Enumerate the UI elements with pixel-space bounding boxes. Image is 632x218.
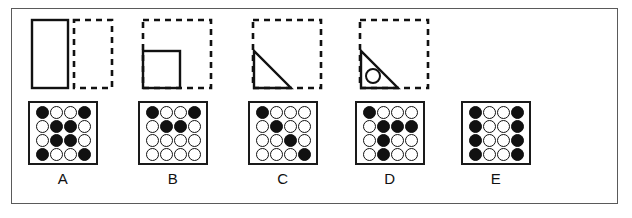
dot-open-r2c1: [146, 120, 159, 133]
dot-grid-row: [465, 147, 527, 161]
dashed-square-shape: [74, 20, 112, 88]
dot-grid-row: [252, 133, 314, 147]
dot-filled-r3c4: [511, 134, 524, 147]
dot-open-r4c1: [256, 148, 269, 161]
dashed-square-shape: [253, 20, 321, 88]
dot-open-r4c4: [188, 148, 201, 161]
option-a-label: A: [25, 170, 101, 187]
option-c[interactable]: C: [245, 101, 321, 187]
solid-triangle-shape: [254, 51, 291, 88]
dot-filled-r2c3: [174, 120, 187, 133]
answer-options-row: A B C D E: [12, 101, 619, 205]
dot-open-r1c3: [391, 106, 404, 119]
dot-grid-row: [465, 133, 527, 147]
stimulus-panel-2: [140, 18, 226, 92]
dot-filled-r2c2: [377, 120, 390, 133]
dot-grid-row: [32, 105, 94, 119]
dot-grid-row: [359, 105, 421, 119]
dot-open-r4c4: [405, 148, 418, 161]
option-b-label: B: [135, 170, 211, 187]
dot-open-r2c3: [284, 120, 297, 133]
dot-open-r1c4: [405, 106, 418, 119]
dot-grid-row: [359, 119, 421, 133]
dot-open-r2c4: [188, 120, 201, 133]
dot-open-r1c2: [377, 106, 390, 119]
dot-grid-row: [465, 105, 527, 119]
triangle-with-circle-figure: [357, 18, 443, 92]
dot-grid-row: [359, 133, 421, 147]
square-in-dashed-square-figure: [140, 18, 226, 92]
dot-filled-r2c3: [64, 120, 77, 133]
dot-open-r4c3: [174, 148, 187, 161]
dot-filled-r4c2: [377, 148, 390, 161]
dashed-square-shape: [143, 20, 211, 88]
dot-grid-d: [355, 101, 425, 165]
dot-filled-r2c3: [391, 120, 404, 133]
dot-filled-r3c1: [469, 134, 482, 147]
dot-open-r3c2: [483, 134, 496, 147]
dot-filled-r4c4: [511, 148, 524, 161]
dot-filled-r2c4: [405, 120, 418, 133]
dot-filled-r4c4: [298, 148, 311, 161]
dot-filled-r4c1: [36, 148, 49, 161]
dot-filled-r3c3: [284, 134, 297, 147]
dot-grid-row: [142, 147, 204, 161]
stimulus-panel-3: [250, 18, 336, 92]
dot-filled-r2c4: [511, 120, 524, 133]
dot-filled-r4c1: [469, 148, 482, 161]
option-b[interactable]: B: [135, 101, 211, 187]
dot-open-r4c2: [483, 148, 496, 161]
dot-open-r1c3: [64, 106, 77, 119]
dot-open-r3c1: [146, 134, 159, 147]
option-c-label: C: [245, 170, 321, 187]
dot-open-r4c3: [391, 148, 404, 161]
dot-open-r2c4: [78, 120, 91, 133]
dot-filled-r2c1: [469, 120, 482, 133]
dot-open-r3c4: [405, 134, 418, 147]
option-a[interactable]: A: [25, 101, 101, 187]
dot-open-r2c3: [497, 120, 510, 133]
dot-open-r2c1: [36, 120, 49, 133]
dot-open-r1c4: [298, 106, 311, 119]
dot-filled-r1c1: [363, 106, 376, 119]
triangle-in-dashed-square-figure: [250, 18, 336, 92]
dot-open-r3c3: [174, 134, 187, 147]
dot-grid-row: [32, 119, 94, 133]
dot-open-r1c2: [270, 106, 283, 119]
dot-filled-r2c2: [270, 120, 283, 133]
dot-filled-r1c4: [188, 106, 201, 119]
dot-open-r2c1: [256, 120, 269, 133]
dot-grid-row: [142, 119, 204, 133]
dot-filled-r3c2: [50, 134, 63, 147]
option-e-label: E: [458, 170, 534, 187]
puzzle-frame: A B C D E: [11, 8, 618, 204]
dot-open-r4c3: [64, 148, 77, 161]
option-e[interactable]: E: [458, 101, 534, 187]
dot-grid-row: [252, 119, 314, 133]
dot-grid-row: [465, 119, 527, 133]
dot-filled-r2c2: [50, 120, 63, 133]
dot-grid-row: [32, 133, 94, 147]
dot-grid-row: [359, 147, 421, 161]
dot-filled-r4c4: [78, 148, 91, 161]
dot-open-r1c3: [174, 106, 187, 119]
solid-triangle-shape: [361, 51, 398, 88]
dot-grid-c: [248, 101, 318, 165]
dot-grid-e: [461, 101, 531, 165]
dot-open-r4c3: [284, 148, 297, 161]
dot-grid-row: [252, 147, 314, 161]
option-d[interactable]: D: [352, 101, 428, 187]
dot-grid-row: [252, 105, 314, 119]
dot-open-r4c2: [270, 148, 283, 161]
dot-filled-r1c4: [511, 106, 524, 119]
dot-open-r1c2: [50, 106, 63, 119]
dot-grid-row: [142, 105, 204, 119]
dot-open-r4c1: [363, 148, 376, 161]
dot-open-r4c2: [160, 148, 173, 161]
dot-filled-r1c1: [146, 106, 159, 119]
solid-square-shape: [143, 51, 180, 88]
dot-open-r4c3: [497, 148, 510, 161]
rectangle-and-dashed-square-figure: [30, 18, 116, 92]
inner-circle-mark: [366, 69, 380, 83]
dot-open-r1c3: [497, 106, 510, 119]
